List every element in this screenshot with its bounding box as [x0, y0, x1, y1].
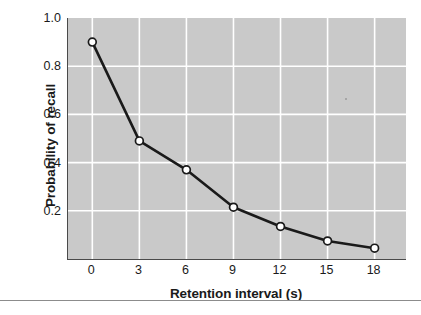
grid-lines	[68, 18, 406, 259]
y-axis-tick-label: 0.2	[31, 205, 61, 218]
data-point-marker	[324, 237, 332, 245]
data-point-marker	[230, 203, 238, 211]
page-speck	[345, 98, 347, 100]
y-axis-tick-label: 0.8	[31, 60, 61, 73]
plot-svg	[68, 18, 406, 259]
data-point-marker	[135, 137, 143, 145]
plot-panel	[67, 18, 406, 260]
data-point-marker	[277, 223, 285, 231]
x-axis-tick-label: 0	[76, 264, 106, 277]
x-axis-tick-label: 15	[312, 264, 342, 277]
y-axis-tick-label: 1.0	[31, 12, 61, 25]
data-point-marker	[371, 244, 379, 252]
x-axis-tick-label: 9	[217, 264, 247, 277]
chart-figure: Probability of recall 0.20.40.60.81.0 03…	[0, 0, 421, 315]
x-axis-title: Retention interval (s)	[67, 286, 405, 301]
y-axis-tick-labels: 0.20.40.60.81.0	[28, 0, 61, 315]
y-axis-tick-label: 0.4	[31, 157, 61, 170]
data-point-marker	[183, 166, 191, 174]
data-point-marker	[88, 38, 96, 46]
x-axis-tick-label: 12	[265, 264, 295, 277]
bottom-divider-rule	[0, 300, 421, 301]
x-axis-tick-label: 18	[359, 264, 389, 277]
y-axis-tick-label: 0.6	[31, 108, 61, 121]
x-axis-tick-label: 3	[123, 264, 153, 277]
x-axis-tick-label: 6	[170, 264, 200, 277]
